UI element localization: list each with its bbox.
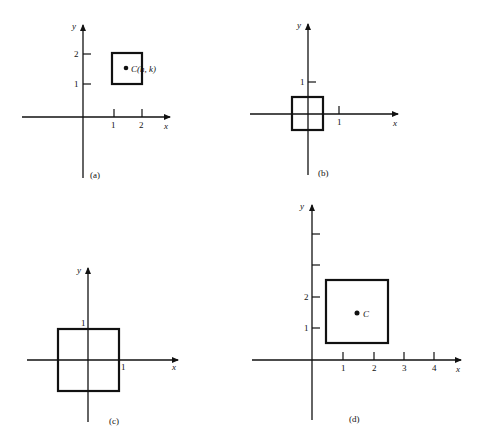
panel-caption: (a) [90,170,100,180]
y-tick-label-2: 2 [74,49,79,59]
panel-caption: (d) [349,414,360,424]
x-tick-label-4: 4 [432,363,437,373]
y-tick-label-1: 1 [81,318,86,328]
x-axis-label: x [163,121,168,131]
y-axis-label: y [76,265,81,275]
panel-d: C 1 2 3 4 1 2 x y (d) [252,201,461,424]
figure-canvas: C(h, k) 1 2 1 2 x y (a) 1 1 x y (b) 1 1 … [0,0,479,443]
x-tick-label-1: 1 [341,363,346,373]
x-tick-label-2: 2 [372,363,377,373]
center-point [124,66,129,71]
y-tick-label-1: 1 [304,323,309,333]
y-tick-label-1: 1 [74,79,79,89]
x-axis-label: x [392,118,397,128]
x-axis-label: x [455,364,460,374]
y-axis-label: y [296,20,301,30]
y-tick-label-2: 2 [304,292,309,302]
x-tick-label-1: 1 [337,117,342,127]
center-label: C(h, k) [131,64,156,74]
center-label: C [363,309,370,319]
y-axis-label: y [299,201,304,211]
x-tick-label-3: 3 [402,363,407,373]
center-point [355,311,360,316]
y-tick-label-1: 1 [300,77,305,87]
panel-c: 1 1 x y (c) [27,265,178,426]
x-axis-label: x [171,362,176,372]
panel-caption: (c) [109,416,119,426]
x-tick-label-1: 1 [111,120,116,130]
x-tick-label-1: 1 [121,362,126,372]
x-tick-label-2: 2 [139,120,144,130]
panel-a: C(h, k) 1 2 1 2 x y (a) [22,21,170,180]
y-axis-label: y [71,21,76,31]
panel-caption: (b) [318,168,329,178]
panel-b: 1 1 x y (b) [250,20,398,178]
